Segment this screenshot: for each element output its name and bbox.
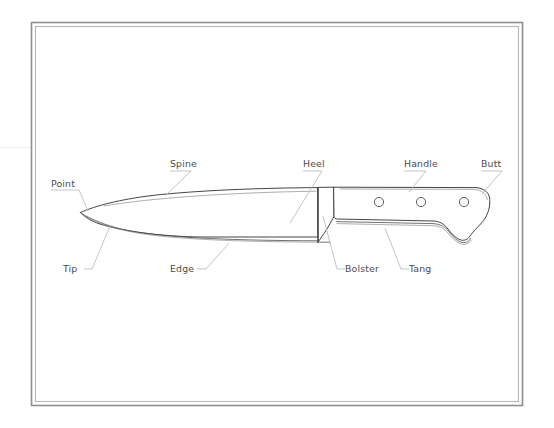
rivet-2: [416, 197, 425, 206]
label-handle: Handle: [404, 158, 438, 169]
label-tip: Tip: [62, 263, 77, 274]
rivet-1: [374, 197, 383, 206]
knife-anatomy-diagram: Point Spine Heel Handle Butt Tip Edge Bo…: [0, 0, 554, 428]
label-heel: Heel: [303, 158, 325, 169]
label-tang: Tang: [408, 263, 431, 274]
label-bolster: Bolster: [345, 263, 379, 274]
diagram-canvas: Point Spine Heel Handle Butt Tip Edge Bo…: [0, 0, 554, 428]
label-point: Point: [51, 178, 75, 189]
label-spine: Spine: [170, 158, 197, 169]
label-butt: Butt: [481, 158, 501, 169]
rivet-3: [459, 197, 468, 206]
label-edge: Edge: [170, 263, 194, 274]
